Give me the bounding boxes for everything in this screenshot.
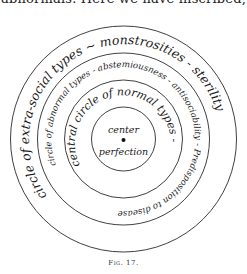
perfection-label: perfection <box>99 146 148 157</box>
concentric-circles-diagram: circle of extra-social types ~ monstrosi… <box>0 0 247 274</box>
center-dot <box>122 138 126 142</box>
figure-caption: Fig. 17. <box>0 259 247 267</box>
center-label: center <box>108 124 141 135</box>
